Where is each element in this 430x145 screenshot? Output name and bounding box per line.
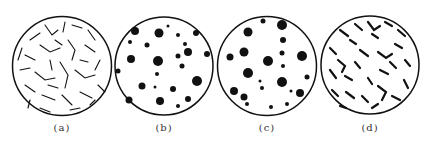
- panel-c-circle: [218, 17, 317, 116]
- panel-a-label: (a): [42, 122, 82, 133]
- panel-d-circle: [321, 16, 419, 114]
- panel-a-circle: [13, 17, 112, 116]
- panel-c-label: (c): [247, 122, 287, 133]
- panel-b-label: (b): [144, 122, 184, 133]
- panel-b-circle: [115, 17, 213, 115]
- panel-d-label: (d): [350, 122, 390, 133]
